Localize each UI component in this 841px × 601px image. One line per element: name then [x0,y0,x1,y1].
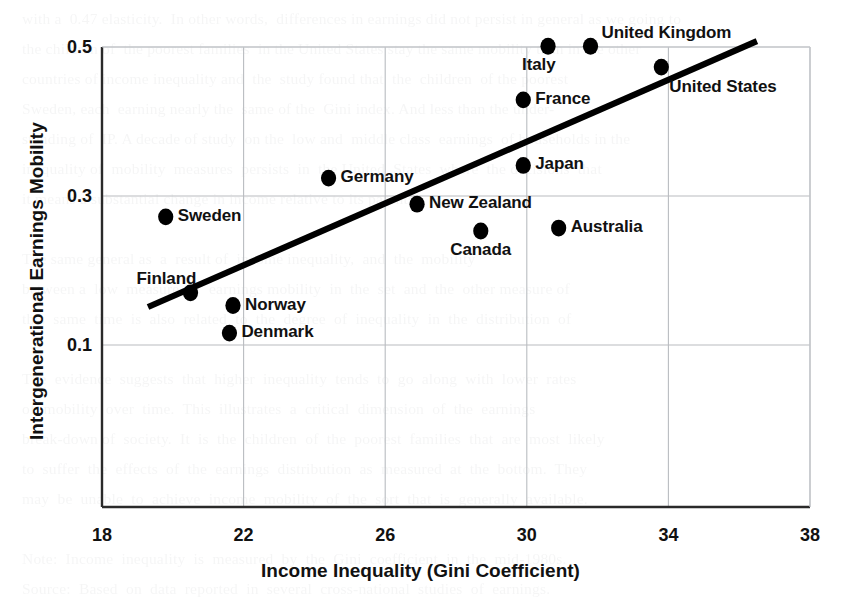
point-label: New Zealand [429,193,532,213]
data-point [551,220,566,237]
data-point [516,91,531,108]
point-label: Canada [450,240,511,260]
data-point [222,325,237,342]
y-tick-label: 0.5 [67,37,92,58]
y-tick-label: 0.3 [67,186,92,207]
x-tick-label: 18 [92,525,112,546]
figure: with a 0.47 elasticity. In other words, … [0,0,841,601]
y-tick-label: 0.1 [67,335,92,356]
axis-spines [102,47,810,507]
data-point [225,297,240,314]
point-label: Australia [571,217,643,237]
data-point [654,59,669,76]
x-tick-label: 26 [375,525,395,546]
x-tick-label: 30 [517,525,537,546]
x-tick-label: 22 [234,525,254,546]
gridlines [102,47,810,507]
point-label: United States [669,77,776,97]
y-axis-title: Intergenerational Earnings Mobility [26,122,48,440]
x-axis-title: Income Inequality (Gini Coefficient) [0,560,841,582]
data-point [158,208,173,225]
data-point [321,170,336,187]
data-point [473,223,488,240]
point-label: Norway [245,295,306,315]
point-label: Denmark [241,322,313,342]
point-label: United Kingdom [602,23,732,43]
data-point [516,157,531,174]
point-label: Italy [522,55,556,75]
data-point [540,38,555,55]
x-tick-label: 38 [800,525,820,546]
point-label: Japan [535,154,584,174]
data-point [583,38,598,55]
point-label: Germany [341,167,414,187]
point-label: Finland [137,269,197,289]
point-label: Sweden [178,206,242,226]
trendline [148,41,757,307]
point-label: France [535,89,590,109]
x-tick-label: 34 [658,525,678,546]
data-point [409,196,424,213]
